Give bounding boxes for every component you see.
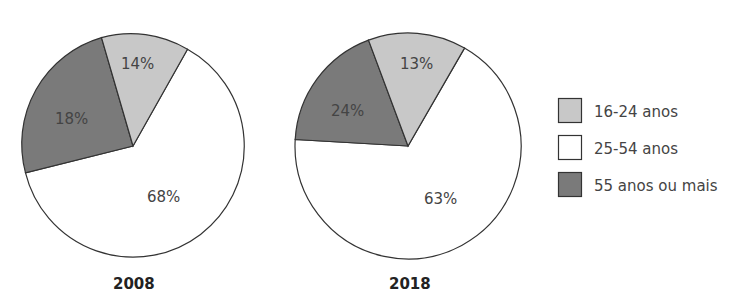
- legend: 16-24 anos 25-54 anos 55 anos ou mais: [559, 99, 718, 197]
- legend-label-55-plus: 55 anos ou mais: [594, 177, 718, 195]
- pie-charts: 14% 18% 68% 2008 13% 24% 63% 2018 16-24 …: [0, 0, 740, 304]
- legend-swatch-25-54: [559, 136, 582, 160]
- label-2018-25-54: 63%: [424, 190, 457, 208]
- label-2008-25-54: 68%: [147, 188, 180, 206]
- year-label-2008: 2008: [113, 275, 155, 293]
- legend-swatch-16-24: [559, 99, 582, 123]
- legend-label-16-24: 16-24 anos: [594, 103, 678, 121]
- label-2018-55-plus: 24%: [331, 102, 364, 120]
- year-label-2018: 2018: [389, 275, 431, 293]
- label-2018-16-24: 13%: [400, 55, 433, 73]
- label-2008-16-24: 14%: [121, 55, 154, 73]
- legend-label-25-54: 25-54 anos: [594, 140, 678, 158]
- legend-swatch-55-plus: [559, 173, 582, 197]
- pie-2018: 13% 24% 63% 2018: [295, 33, 521, 293]
- label-2008-55-plus: 18%: [55, 110, 88, 128]
- pie-2008: 14% 18% 68% 2008: [22, 34, 245, 293]
